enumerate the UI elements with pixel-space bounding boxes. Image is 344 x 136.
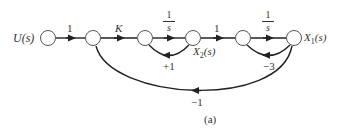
gain-label-fb3: −1 bbox=[191, 97, 203, 108]
gain-label-b4: 1 bbox=[214, 23, 220, 34]
gain-label-fb2: −3 bbox=[263, 61, 275, 72]
node-x2 bbox=[186, 31, 201, 46]
x2-node-label: X2(s) bbox=[193, 46, 215, 60]
feedback-x2-to-n3 bbox=[149, 45, 189, 56]
gain-label-fb1: +1 bbox=[163, 61, 175, 72]
gain-label-b3: 1 s bbox=[163, 10, 175, 33]
gain-label-b2: K bbox=[115, 23, 122, 34]
node-5 bbox=[236, 31, 251, 46]
node-3 bbox=[138, 31, 153, 46]
node-x1 bbox=[287, 31, 302, 46]
signal-flow-graph-figure: U(s) X2(s) X1(s) 1 K 1 s 1 1 s +1 −3 −1 … bbox=[0, 0, 344, 136]
input-node-label: U(s) bbox=[13, 32, 34, 44]
node-2 bbox=[86, 31, 101, 46]
gain-label-b1: 1 bbox=[67, 23, 73, 34]
figure-caption: (a) bbox=[204, 114, 216, 125]
node-u bbox=[41, 31, 56, 46]
gain-label-b5: 1 s bbox=[262, 10, 274, 33]
feedback-x1-to-n5 bbox=[247, 45, 290, 56]
x1-node-label: X1(s) bbox=[304, 32, 326, 46]
